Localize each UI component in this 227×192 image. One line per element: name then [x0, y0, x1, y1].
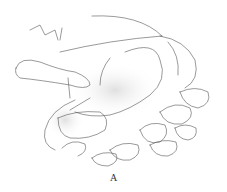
anatomical-illustration [0, 0, 227, 192]
illustration-drawing [0, 0, 227, 192]
figure-label: A [0, 172, 227, 183]
